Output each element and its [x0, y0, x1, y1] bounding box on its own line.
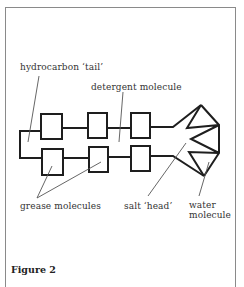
leader-grease-1 [37, 166, 52, 198]
label-detergent-molecule: detergent molecule [91, 82, 182, 92]
hydrocarbon-unit [131, 113, 150, 138]
leader-grease-2 [37, 162, 101, 198]
water-molecule-outline [187, 105, 219, 176]
figure-caption: Figure 2 [11, 264, 56, 275]
hydrocarbon-unit [131, 146, 150, 171]
bottom-chain-to-head [150, 156, 204, 176]
leader-detergent [119, 92, 123, 142]
leader-water [199, 162, 209, 196]
salt-head [201, 105, 219, 176]
hydrocarbon-unit [88, 113, 107, 138]
label-grease-molecules: grease molecules [20, 201, 101, 211]
grease-molecule [42, 149, 63, 175]
leader-tail [28, 76, 39, 142]
label-water: water [189, 200, 216, 210]
detergent-molecule-chain [20, 131, 42, 158]
leader-head [148, 143, 186, 196]
label-salt-head: salt ‘head’ [124, 201, 172, 211]
label-hydrocarbon-tail: hydrocarbon ‘tail’ [20, 62, 103, 72]
grease-molecule [89, 147, 108, 172]
label-molecule: molecule [189, 210, 231, 220]
hydrocarbon-unit [41, 114, 62, 139]
